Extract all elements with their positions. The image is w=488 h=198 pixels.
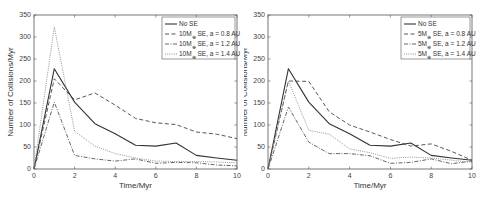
x-tick-label: 0 — [266, 172, 270, 179]
legend: No SE5M⊕ SE, a = 0.8 AU5M⊕ SE, a = 1.2 A… — [401, 17, 476, 60]
y-axis-label: Number of Collisions/Myr — [6, 47, 15, 137]
x-tick-label: 4 — [113, 172, 117, 179]
x-tick-label: 2 — [307, 172, 311, 179]
y-tick-label: 100 — [19, 121, 31, 128]
x-tick-label: 10 — [233, 172, 241, 179]
legend-entry: No SE — [418, 20, 437, 27]
y-tick-label: 200 — [253, 77, 265, 84]
x-tick-label: 0 — [32, 172, 36, 179]
y-tick-label: 0 — [27, 165, 31, 172]
y-tick-label: 50 — [257, 143, 265, 150]
y-tick-label: 0 — [261, 165, 265, 172]
y-tick-label: 100 — [253, 121, 265, 128]
x-tick-label: 10 — [468, 172, 476, 179]
x-tick-label: 2 — [73, 172, 77, 179]
x-axis-label: Time/Myr — [353, 181, 386, 190]
y-tick-label: 250 — [19, 55, 31, 62]
x-tick-label: 4 — [348, 172, 352, 179]
y-tick-label: 350 — [253, 11, 265, 18]
y-tick-label: 200 — [19, 77, 31, 84]
y-tick-label: 300 — [19, 33, 31, 40]
x-tick-label: 8 — [429, 172, 433, 179]
y-tick-label: 350 — [19, 11, 31, 18]
x-tick-label: 6 — [154, 172, 158, 179]
y-tick-label: 150 — [19, 99, 31, 106]
y-tick-label: 300 — [253, 33, 265, 40]
chart-panel-left: 0246810050100150200250300350Time/MyrNumb… — [0, 0, 244, 198]
line-chart-10-earth-mass: 0246810050100150200250300350Time/MyrNumb… — [0, 0, 244, 198]
legend-entry: No SE — [179, 20, 198, 27]
x-tick-label: 6 — [388, 172, 392, 179]
legend: No SE10M⊕ SE, a = 0.8 AU10M⊕ SE, a = 1.2… — [162, 17, 241, 60]
x-tick-label: 8 — [194, 172, 198, 179]
line-chart-5-earth-mass: 0246810050100150200250300350Time/MyrNumb… — [244, 0, 488, 198]
y-tick-label: 150 — [253, 99, 265, 106]
y-tick-label: 50 — [23, 143, 31, 150]
y-axis-label: Number of Collisions/Myr — [244, 47, 249, 137]
y-tick-label: 250 — [253, 55, 265, 62]
x-axis-label: Time/Myr — [119, 181, 152, 190]
chart-panel-right: 0246810050100150200250300350Time/MyrNumb… — [244, 0, 488, 198]
